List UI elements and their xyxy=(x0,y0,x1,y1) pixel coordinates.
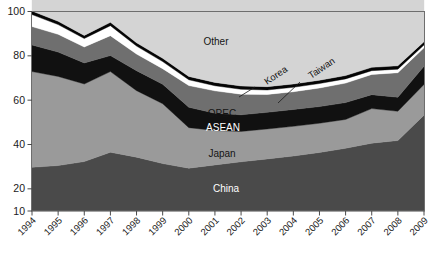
series-label-other: Other xyxy=(203,36,229,47)
y-axis-ticks: 1020406080100 xyxy=(7,5,32,217)
x-tick-label: 2003 xyxy=(250,215,273,238)
x-tick-label: 1996 xyxy=(67,215,90,238)
series-label-asean: ASEAN xyxy=(206,122,240,133)
x-tick-label: 1997 xyxy=(94,215,117,238)
y-tick-label: 20 xyxy=(13,182,25,194)
x-tick-label: 2002 xyxy=(224,215,247,238)
x-axis-ticks: 1994199519961997199819992000200120022003… xyxy=(15,211,430,237)
stacked-area-chart: 1020406080100 19941995199619971998199920… xyxy=(0,0,437,258)
series-label-opec: OPEC xyxy=(208,108,236,119)
y-tick-label: 100 xyxy=(7,5,25,17)
x-tick-label: 2009 xyxy=(407,215,430,238)
chart-canvas: 1020406080100 19941995199619971998199920… xyxy=(0,0,437,258)
x-tick-label: 2007 xyxy=(355,215,378,238)
x-tick-label: 2005 xyxy=(303,215,326,238)
x-tick-label: 1998 xyxy=(120,215,143,238)
x-tick-label: 1995 xyxy=(41,215,64,238)
x-tick-label: 2001 xyxy=(198,215,221,238)
x-tick-label: 2004 xyxy=(277,215,300,238)
x-tick-label: 1994 xyxy=(15,215,38,238)
x-tick-label: 2006 xyxy=(329,215,352,238)
area-series-group xyxy=(32,0,424,211)
x-tick-label: 2008 xyxy=(381,215,404,238)
series-label-china: China xyxy=(213,183,240,194)
y-tick-label: 60 xyxy=(13,94,25,106)
x-tick-label: 2000 xyxy=(172,215,195,238)
y-tick-label: 40 xyxy=(13,138,25,150)
x-tick-label: 1999 xyxy=(146,215,169,238)
y-tick-label: 80 xyxy=(13,49,25,61)
y-tick-label: 10 xyxy=(13,205,25,217)
series-label-japan: Japan xyxy=(208,148,235,159)
